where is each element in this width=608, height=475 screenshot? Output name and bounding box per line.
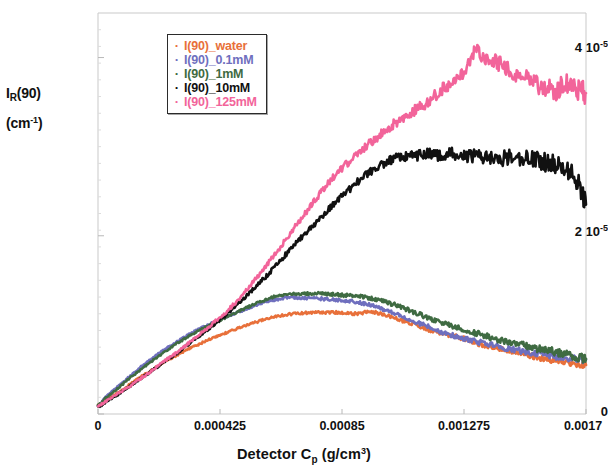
legend-marker-dot-icon: · xyxy=(173,42,181,50)
legend-marker-dot-icon: · xyxy=(173,84,181,92)
legend-marker-dot-icon: · xyxy=(173,70,181,78)
legend-label-125mM: I(90)_125mM xyxy=(184,95,257,109)
plot-area xyxy=(0,0,608,475)
legend-item-125mM: · I(90)_125mM xyxy=(173,95,257,109)
legend-label-10mM: I(90)_10mM xyxy=(184,81,250,95)
series-line-I(90)_10mM xyxy=(98,148,586,407)
legend-marker-dot-icon: · xyxy=(173,98,181,106)
legend-label-water: I(90)_water xyxy=(184,39,247,53)
scattering-intensity-chart: IR(90) (cm-1) 4 10-5 2 10-5 0 0 0.000425… xyxy=(0,0,608,475)
legend-item-water: · I(90)_water xyxy=(173,39,257,53)
legend-label-0.1mM: I(90)_0.1mM xyxy=(184,53,253,67)
legend-label-1mM: I(90)_1mM xyxy=(184,67,243,81)
chart-legend: · I(90)_water · I(90)_0.1mM · I(90)_1mM … xyxy=(167,34,267,114)
legend-item-1mM: · I(90)_1mM xyxy=(173,67,257,81)
legend-item-10mM: · I(90)_10mM xyxy=(173,81,257,95)
legend-marker-dot-icon: · xyxy=(173,56,181,64)
legend-item-0.1mM: · I(90)_0.1mM xyxy=(173,53,257,67)
